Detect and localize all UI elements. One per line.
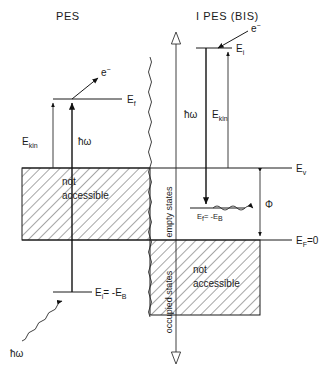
fermi-level-label: EF=0 [296,235,319,248]
pes-emitted-electron-arrow [72,78,98,99]
ipes-incoming-electron-arrow [218,31,248,48]
occupied-states-label: occupied states [164,270,174,333]
pes-title: PES [56,10,80,22]
pes-electron-label: e− [101,66,111,78]
hatched-region-upper-left [22,168,150,240]
pes-incoming-photon-wave [22,301,62,341]
pes-ekin-label: Ekin [22,136,38,149]
ipes-ekin-label: Ekin [212,109,228,122]
work-function-label: Φ [265,199,273,210]
not-accessible-upper-line2: accessible [62,190,109,201]
pes-final-level-label: Ef [127,94,136,107]
ipes-final-level-label: Ef= -EB [197,212,223,222]
diagram-canvas: empty states occupied states PES Ef e− E… [0,0,321,368]
pes-photon-label: ħω [78,136,92,147]
not-accessible-upper-line1: not [62,176,76,187]
not-accessible-lower-line2: accessible [193,278,240,289]
empty-states-label: empty states [164,186,174,238]
states-axis-arrow-up [171,32,180,44]
ipes-photon-label: ħω [184,109,198,120]
ipes-title: I PES (BIS) [196,10,259,22]
pes-ipes-diagram: empty states occupied states PES Ef e− E… [0,0,321,368]
ipes-initial-level-label: Ei [236,43,245,56]
pes-incoming-photon-label: ħω [10,348,24,359]
vacuum-level-label: Ev [296,163,307,176]
states-axis-arrow-down [171,352,180,364]
pes-initial-level-label: Ei= -EB [95,287,127,300]
not-accessible-lower-line1: not [193,264,207,275]
ipes-electron-label: e− [251,22,261,34]
